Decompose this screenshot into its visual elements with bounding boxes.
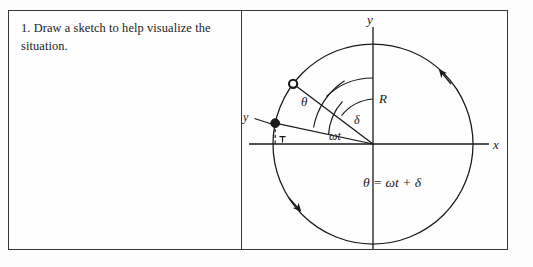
projection-label: y [242, 110, 249, 124]
screenshot-page: 1. Draw a sketch to help visualize the s… [0, 0, 533, 267]
radius-sweep-arc [327, 78, 374, 97]
x-axis-label: x [492, 137, 499, 152]
theta-label: θ [301, 94, 308, 109]
circular-motion-diagram: y x y [241, 11, 507, 249]
figure-frame: 1. Draw a sketch to help visualize the s… [8, 10, 508, 250]
projection-tick-mark [279, 137, 285, 143]
open-circle-marker [289, 80, 297, 88]
text-pane: 1. Draw a sketch to help visualize the s… [9, 11, 241, 249]
omega-t-label: ωt [329, 129, 341, 143]
rotation-arrow-lower-left [289, 198, 298, 208]
figure-pane: y x y [241, 11, 507, 249]
rotation-arrow-upper-right [442, 73, 451, 84]
radius-label: R [378, 91, 387, 106]
projection-leader-line [255, 119, 274, 125]
delta-label: δ [354, 113, 360, 127]
caption-equation: θ = ωt + δ [363, 175, 422, 190]
y-axis-label: y [365, 12, 373, 27]
prompt-text: 1. Draw a sketch to help visualize the s… [21, 20, 229, 55]
